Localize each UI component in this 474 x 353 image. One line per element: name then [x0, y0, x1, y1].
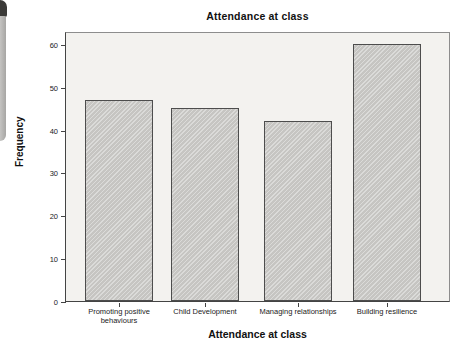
- y-tick-mark: [61, 302, 66, 303]
- y-tick-label: 40: [38, 127, 58, 136]
- y-tick-mark: [61, 45, 66, 46]
- y-tick-mark: [61, 131, 66, 132]
- category-label: Promoting positive behaviours: [74, 308, 164, 325]
- bar-2: [171, 108, 239, 301]
- screenshot-page: Attendance at class 0102030405060Promoti…: [0, 0, 474, 353]
- bar-chart: Attendance at class 0102030405060Promoti…: [0, 0, 474, 353]
- x-axis-title: Attendance at class: [65, 328, 450, 340]
- y-tick-mark: [61, 88, 66, 89]
- bar-3: [264, 121, 332, 301]
- category-label: Building resilience: [342, 308, 432, 317]
- y-tick-mark: [61, 173, 66, 174]
- y-tick-label: 20: [38, 212, 58, 221]
- y-tick-label: 60: [38, 41, 58, 50]
- y-tick-label: 0: [38, 298, 58, 307]
- y-tick-label: 50: [38, 84, 58, 93]
- y-tick-label: 10: [38, 255, 58, 264]
- bar-4: [353, 44, 421, 301]
- y-tick-label: 30: [38, 169, 58, 178]
- bar-1: [85, 100, 153, 301]
- plot-area: 0102030405060Promoting positive behaviou…: [65, 32, 450, 302]
- category-label: Managing relationships: [253, 308, 343, 317]
- category-label: Child Development: [160, 308, 250, 317]
- y-tick-mark: [61, 216, 66, 217]
- chart-title: Attendance at class: [65, 10, 450, 22]
- y-tick-mark: [61, 259, 66, 260]
